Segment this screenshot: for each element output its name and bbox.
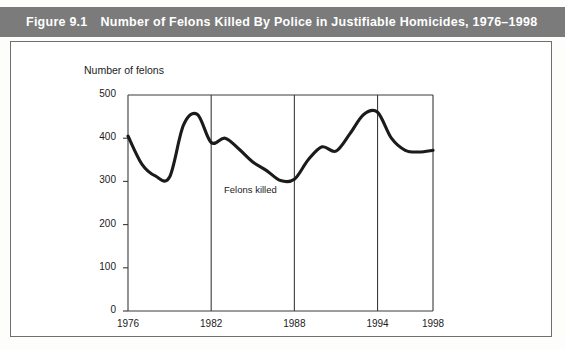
figure-content-box xyxy=(10,41,552,337)
figure-number-label: Figure 9.1 xyxy=(26,15,88,29)
figure-title: Figure 9.1Number of Felons Killed By Pol… xyxy=(26,15,537,29)
figure-header-bar: Figure 9.1Number of Felons Killed By Pol… xyxy=(0,7,565,37)
figure-title-text: Number of Felons Killed By Police in Jus… xyxy=(101,15,538,29)
figure-root: Figure 9.1Number of Felons Killed By Pol… xyxy=(0,0,565,350)
